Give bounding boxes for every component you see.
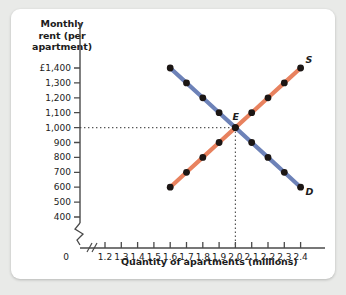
y-axis-tick-label: 800	[19, 152, 71, 162]
y-axis-tick-label: 600	[19, 182, 71, 192]
x-axis-tick-label: 2.4	[288, 252, 314, 262]
y-axis-tick-label: 700	[19, 167, 71, 177]
y-axis-tick-label: 500	[19, 197, 71, 207]
chart-panel: Monthly rent (per apartment) Quantity of…	[11, 9, 335, 279]
x-axis-tick-label: 0	[53, 252, 79, 262]
y-axis-tick-label: 1,200	[19, 93, 71, 103]
demand-curve-label: D	[306, 186, 314, 197]
y-axis-tick-label: 1,100	[19, 108, 71, 118]
equilibrium-guide-lines	[80, 128, 235, 248]
supply-curve-label: S	[306, 54, 313, 65]
y-axis-tick-label: £1,400	[19, 63, 71, 73]
equilibrium-label: E	[232, 111, 239, 122]
y-axis-tick-label: 1,000	[19, 123, 71, 133]
y-axis-tick-label: 900	[19, 138, 71, 148]
y-axis-tick-label: 400	[19, 212, 71, 222]
axis-lines	[75, 23, 325, 252]
y-axis-tick-label: 1,300	[19, 78, 71, 88]
